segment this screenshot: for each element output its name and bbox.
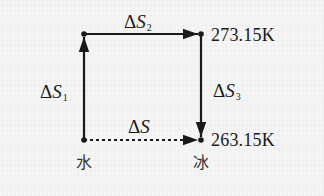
entropy-symbol: S [136,11,146,32]
entropy-symbol: S [52,81,62,102]
node-bottom-left [81,137,87,143]
label-delta-s3: ΔS3 [213,81,241,102]
entropy-symbol: S [225,80,235,101]
delta-symbol: Δ [40,81,52,102]
label-delta-s1: ΔS1 [40,82,68,103]
label-delta-s: ΔS [128,117,150,136]
delta-symbol: Δ [128,116,140,137]
temperature-top: 273.15K [211,26,275,44]
temperature-bottom: 263.15K [211,131,275,149]
delta-symbol: Δ [124,11,136,32]
phase-water: 水 [76,155,92,171]
node-bottom-right [198,137,204,143]
phase-ice: 冰 [193,155,209,171]
label-delta-s2: ΔS2 [124,12,152,33]
entropy-symbol: S [140,116,150,137]
subscript: 3 [236,91,241,102]
delta-symbol: Δ [213,80,225,101]
node-top-right [198,31,204,37]
subscript: 1 [63,92,68,103]
node-top-left [81,31,87,37]
subscript: 2 [147,22,152,33]
